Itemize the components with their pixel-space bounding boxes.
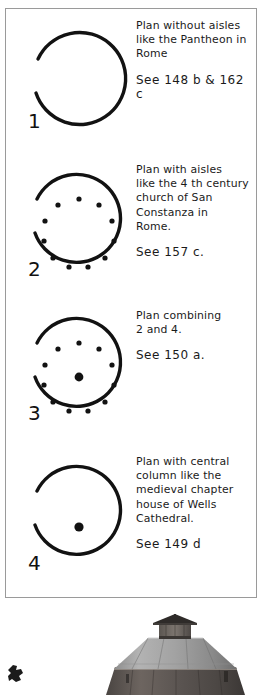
plan-row: 4 Plan with central column like the medi… — [6, 449, 258, 595]
center-column-dot — [75, 373, 84, 382]
plan-row: 3 Plan combining 2 and 4. See 150 a. — [6, 301, 258, 447]
plan-reference: See 150 a. — [136, 348, 254, 362]
plan-numeral: 1 — [28, 111, 41, 131]
plan-numeral: 3 — [28, 403, 41, 423]
plan-sheet-frame: 1 Plan without aisles like the Pantheon … — [5, 8, 257, 598]
plan-description: Plan with aisles like the 4 th century c… — [136, 163, 254, 234]
plan-text-block: Plan without aisles like the Pantheon in… — [136, 19, 258, 101]
plan-reference: See 157 c. — [136, 245, 254, 259]
column-ring-dots — [41, 196, 116, 269]
plan-text-block: Plan combining 2 and 4. See 150 a. — [136, 309, 258, 363]
ink-blob-mark — [6, 663, 26, 685]
plan-text-block: Plan with aisles like the 4 th century c… — [136, 163, 258, 259]
photograph-area — [0, 600, 263, 695]
plan-reference: See 148 b & 162 c — [136, 73, 254, 101]
plan-reference: See 149 d — [136, 537, 254, 551]
round-barn-photo — [88, 614, 263, 695]
plan-description: Plan combining 2 and 4. — [136, 309, 254, 337]
center-column-dot — [74, 522, 83, 531]
plan-description: Plan without aisles like the Pantheon in… — [136, 19, 254, 62]
circle-plan-open-figure — [14, 15, 136, 155]
plan-row: 2 Plan with aisles like the 4 th century… — [6, 159, 258, 301]
plan-row: 1 Plan without aisles like the Pantheon … — [6, 15, 258, 157]
plan-description: Plan with central column like the mediev… — [136, 455, 254, 526]
plan-numeral: 4 — [28, 553, 41, 573]
plan-text-block: Plan with central column like the mediev… — [136, 455, 258, 551]
plan-numeral: 2 — [28, 259, 41, 279]
